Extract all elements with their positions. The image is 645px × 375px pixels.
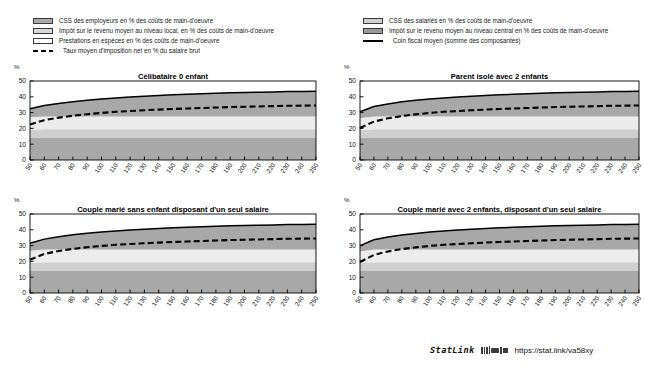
x-tick-label: 60 (367, 161, 377, 171)
x-tick-label: 170 (193, 294, 205, 307)
x-tick-label: 200 (561, 294, 573, 307)
x-tick-label: 220 (265, 161, 277, 174)
legend-swatch-central-income-tax (363, 28, 383, 35)
plot-area: 0102030405050607080901001101201301401501… (330, 196, 645, 328)
statlink-url[interactable]: https://stat.link/va58xy (515, 346, 594, 355)
x-tick-label: 160 (179, 294, 191, 307)
x-tick-label: 190 (547, 161, 559, 174)
y-tick-label: 40 (349, 226, 357, 233)
x-tick-label: 210 (250, 161, 262, 174)
x-tick-label: 230 (603, 161, 615, 174)
x-tick-label: 110 (435, 294, 447, 307)
x-tick-label: 210 (575, 161, 587, 174)
x-tick-label: 220 (265, 294, 277, 307)
legend-item-label: CSS des employeurs en % des coûts de mai… (59, 17, 333, 26)
y-tick-label: 10 (349, 141, 357, 148)
chart-panel-celibataire-0-enfant: % Célibataire 0 enfant 01020304050506070… (0, 63, 322, 195)
x-tick-label: 240 (293, 294, 305, 307)
legend-solid-line-tax-wedge (363, 38, 383, 45)
x-tick-label: 180 (533, 294, 545, 307)
legend-item-label: CSS des salariés en % des coûts de main-… (389, 17, 645, 26)
legend-item: Coin fiscal moyen (somme des composantes… (363, 37, 645, 46)
x-tick-label: 140 (150, 294, 162, 307)
x-tick-label: 140 (477, 161, 489, 174)
x-tick-label: 240 (293, 161, 305, 174)
chart-panel-parent-isole-2-enfants: % Parent isolé avec 2 enfants 0102030405… (330, 63, 645, 195)
x-tick-label: 80 (395, 161, 405, 171)
x-tick-label: 60 (367, 294, 377, 304)
statlink-barcode-icon (481, 346, 509, 355)
x-tick-label: 230 (603, 294, 615, 307)
y-tick-label: 0 (22, 289, 26, 296)
y-tick-label: 0 (352, 156, 356, 163)
chart-svg: 0102030405050607080901001101201301401501… (0, 196, 322, 328)
x-tick-label: 70 (52, 294, 62, 304)
x-tick-label: 60 (38, 161, 48, 171)
legend-item-label: Taux moyen d'imposition net en % du sala… (59, 47, 333, 56)
y-tick-label: 40 (349, 93, 357, 100)
x-tick-label: 70 (381, 294, 391, 304)
x-tick-label: 80 (66, 161, 76, 171)
x-tick-label: 150 (164, 294, 176, 307)
area-series (30, 262, 316, 271)
statlink-footer: StatLink https://stat.link/va58xy (430, 345, 593, 355)
x-tick-label: 250 (307, 161, 319, 174)
x-tick-label: 250 (630, 294, 642, 307)
area-series (360, 117, 639, 130)
y-tick-label: 30 (349, 242, 357, 249)
legend-item-label: Impôt sur le revenu moyen au niveau cent… (389, 27, 645, 36)
legend-item-label: Coin fiscal moyen (somme des composantes… (389, 37, 645, 46)
legend-item: Taux moyen d'imposition net en % du sala… (33, 47, 333, 56)
x-tick-label: 110 (435, 161, 447, 174)
x-tick-label: 100 (93, 161, 105, 174)
x-tick-label: 170 (193, 161, 205, 174)
chart-panel-couple-marie-sans-enfant: % Couple marié sans enfant disposant d'u… (0, 196, 322, 328)
x-tick-label: 120 (449, 294, 461, 307)
y-tick-label: 10 (19, 274, 27, 281)
x-tick-label: 150 (491, 161, 503, 174)
x-tick-label: 210 (250, 294, 262, 307)
x-tick-label: 230 (279, 161, 291, 174)
x-tick-label: 150 (491, 294, 503, 307)
y-tick-label: 10 (349, 274, 357, 281)
x-tick-label: 130 (463, 161, 475, 174)
x-tick-label: 120 (122, 294, 134, 307)
x-tick-label: 140 (477, 294, 489, 307)
x-tick-label: 120 (449, 161, 461, 174)
x-tick-label: 200 (561, 161, 573, 174)
x-tick-label: 70 (381, 161, 391, 171)
x-tick-label: 110 (108, 161, 120, 174)
x-tick-label: 90 (409, 161, 419, 171)
x-tick-label: 240 (617, 161, 629, 174)
legend-item: Prestations en espèces en % des coûts de… (33, 37, 333, 46)
x-tick-label: 190 (222, 161, 234, 174)
x-tick-label: 160 (179, 161, 191, 174)
x-tick-label: 230 (279, 294, 291, 307)
chart-svg: 0102030405050607080901001101201301401501… (330, 63, 645, 195)
y-tick-label: 50 (19, 210, 27, 217)
x-tick-label: 90 (81, 294, 91, 304)
y-tick-label: 20 (349, 125, 357, 132)
x-tick-label: 180 (533, 161, 545, 174)
x-tick-label: 160 (505, 294, 517, 307)
area-series (30, 117, 316, 130)
x-tick-label: 100 (93, 294, 105, 307)
y-tick-label: 30 (19, 109, 27, 116)
statlink-label: StatLink (430, 345, 475, 355)
chart-panel-couple-marie-2-enfants: % Couple marié avec 2 enfants, disposant… (330, 196, 645, 328)
legend-item: CSS des salariés en % des coûts de main-… (363, 17, 645, 26)
area-series (360, 262, 639, 271)
x-tick-label: 80 (395, 294, 405, 304)
x-tick-label: 90 (409, 294, 419, 304)
x-tick-label: 130 (136, 161, 148, 174)
x-tick-label: 160 (505, 161, 517, 174)
x-tick-label: 190 (547, 294, 559, 307)
y-tick-label: 20 (19, 125, 27, 132)
x-tick-label: 180 (207, 161, 219, 174)
legend-item-label: Impôt sur le revenu moyen au niveau loca… (59, 27, 333, 36)
plot-area: 0102030405050607080901001101201301401501… (0, 196, 322, 328)
area-series (30, 129, 316, 138)
x-tick-label: 150 (164, 161, 176, 174)
y-tick-label: 30 (19, 242, 27, 249)
y-tick-label: 0 (352, 289, 356, 296)
